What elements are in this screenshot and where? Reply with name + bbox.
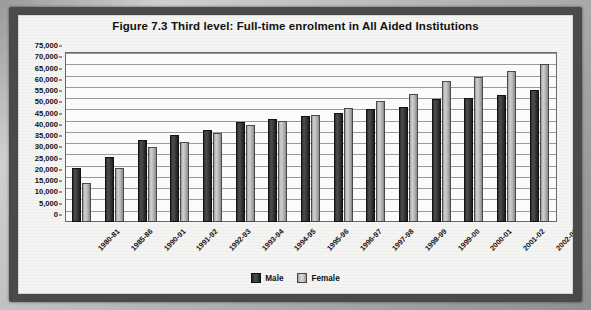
bar-group [497, 53, 517, 222]
y-axis-tick-label: 50,000 [35, 99, 58, 107]
y-axis-tick-mark [59, 215, 62, 216]
legend-swatch-female-icon [297, 273, 307, 283]
y-axis-labels: 75,00070,00065,00060,00055,00050,00045,0… [18, 45, 62, 229]
bar-male-1994-95[interactable] [268, 119, 277, 222]
bar-male-1985-86[interactable] [105, 157, 114, 222]
bar-female-2000-01[interactable] [474, 77, 483, 222]
x-axis-tick-label: 1985-86 [129, 227, 155, 253]
y-axis-tick-mark [59, 102, 62, 103]
bar-female-2002-03[interactable] [540, 64, 549, 222]
bar-male-1993-94[interactable] [236, 122, 245, 222]
x-axis-tick-label: 1996-97 [358, 227, 384, 253]
y-axis-tick-label: 40,000 [35, 121, 58, 129]
bar-group [334, 53, 354, 222]
y-axis-tick-label: 5,000 [39, 200, 58, 208]
y-axis-tick-mark [59, 124, 62, 125]
y-axis-tick-label: 45,000 [35, 110, 58, 118]
bar-group [138, 53, 158, 222]
bar-female-1997-98[interactable] [376, 101, 385, 222]
bar-female-1991-92[interactable] [180, 142, 189, 222]
bar-male-1996-97[interactable] [334, 113, 343, 222]
y-axis-tick-label: 20,000 [35, 166, 58, 174]
y-axis-tick-mark [59, 79, 62, 80]
y-axis-tick-label: 75,000 [35, 42, 58, 50]
screenshot-page: Figure 7.3 Third level: Full-time enrolm… [0, 0, 591, 310]
x-axis-tick-label: 1997-98 [390, 227, 416, 253]
bar-female-1996-97[interactable] [344, 108, 353, 222]
y-axis-tick-label: 55,000 [35, 87, 58, 95]
bar-group [530, 53, 550, 222]
bar-group [301, 53, 321, 222]
bar-female-1999-00[interactable] [442, 81, 451, 222]
bar-female-2001-02[interactable] [507, 71, 516, 222]
legend-label-female: Female [311, 274, 339, 283]
y-axis-tick-mark [59, 181, 62, 182]
bar-female-1992-93[interactable] [213, 133, 222, 222]
legend-item-male[interactable]: Male [251, 273, 283, 283]
x-axis-tick-label: 1990-91 [162, 227, 188, 253]
bar-female-1998-99[interactable] [409, 94, 418, 222]
y-axis-tick-mark [59, 91, 62, 92]
bar-male-1980-81[interactable] [72, 168, 81, 222]
bar-series-container [66, 53, 556, 222]
legend-item-female[interactable]: Female [297, 273, 339, 283]
bar-female-1993-94[interactable] [246, 125, 255, 222]
bar-male-1992-93[interactable] [203, 130, 212, 222]
y-axis-tick-label: 10,000 [35, 189, 58, 197]
bar-group [170, 53, 190, 222]
legend-label-male: Male [265, 274, 283, 283]
y-axis-tick-label: 70,000 [35, 53, 58, 61]
x-axis-tick-label: 2002-03 [554, 227, 573, 253]
y-axis-tick-label: 25,000 [35, 155, 58, 163]
bar-male-1990-91[interactable] [138, 140, 147, 222]
x-axis-tick-label: 2000-01 [488, 227, 514, 253]
x-axis-tick-label: 1999-00 [456, 227, 482, 253]
bar-female-1994-95[interactable] [278, 121, 287, 222]
bar-female-1995-96[interactable] [311, 115, 320, 222]
bar-group [105, 53, 125, 222]
y-axis-tick-label: 15,000 [35, 177, 58, 185]
chart-legend: Male Female [18, 273, 573, 283]
bar-female-1980-81[interactable] [82, 183, 91, 222]
bar-male-1991-92[interactable] [170, 135, 179, 222]
x-axis-tick-label: 1998-99 [423, 227, 449, 253]
bar-female-1990-91[interactable] [148, 147, 157, 222]
bar-male-1995-96[interactable] [301, 116, 310, 222]
y-axis-tick-label: 0 [54, 211, 58, 219]
x-axis-tick-label: 2001-02 [521, 227, 547, 253]
x-axis-tick-label: 1994-95 [292, 227, 318, 253]
bar-group [366, 53, 386, 222]
x-axis-tick-label: 1980-81 [96, 227, 122, 253]
bar-group [72, 53, 92, 222]
y-axis-tick-mark [59, 113, 62, 114]
y-axis-tick-mark [59, 136, 62, 137]
y-axis-tick-mark [59, 203, 62, 204]
x-axis-tick-label: 1995-96 [325, 227, 351, 253]
bar-male-1997-98[interactable] [366, 109, 375, 222]
bar-male-2000-01[interactable] [464, 98, 473, 222]
bar-group [432, 53, 452, 222]
bar-male-2001-02[interactable] [497, 95, 506, 222]
y-axis-tick-mark [59, 46, 62, 47]
x-axis-tick-label: 1991-92 [194, 227, 220, 253]
bar-female-1985-86[interactable] [115, 168, 124, 222]
y-axis-tick-mark [59, 68, 62, 69]
bar-group [236, 53, 256, 222]
bar-male-2002-03[interactable] [530, 90, 539, 222]
page-title: Figure 7.3 Third level: Full-time enrolm… [18, 20, 573, 32]
bar-male-1998-99[interactable] [399, 107, 408, 222]
bar-group [399, 53, 419, 222]
y-axis-tick-label: 65,000 [35, 65, 58, 73]
y-axis-tick-mark [59, 147, 62, 148]
y-axis-tick-mark [59, 169, 62, 170]
y-axis-tick-label: 30,000 [35, 144, 58, 152]
y-axis-tick-mark [59, 192, 62, 193]
legend-swatch-male-icon [251, 273, 261, 283]
y-axis-tick-mark [59, 158, 62, 159]
bar-male-1999-00[interactable] [432, 99, 441, 222]
bar-group [203, 53, 223, 222]
x-axis-tick-label: 1993-94 [260, 227, 286, 253]
x-axis-labels: 1980-811985-861990-911991-921992-931993-… [66, 225, 556, 277]
bar-group [268, 53, 288, 222]
y-axis-tick-label: 35,000 [35, 132, 58, 140]
